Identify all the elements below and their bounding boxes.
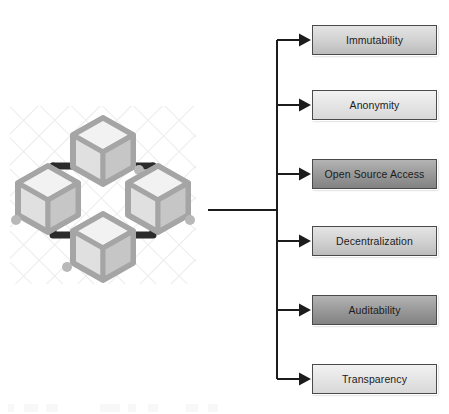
node-box-immutability[interactable]: Immutability <box>312 25 437 55</box>
node-box-anonymity[interactable]: Anonymity <box>312 90 437 120</box>
diagram-canvas: Immutability Anonymity Open Source Acces… <box>0 0 449 414</box>
node-box-decentralization[interactable]: Decentralization <box>312 226 437 256</box>
bottom-edge-artifact <box>8 404 218 412</box>
node-label-decentralization: Decentralization <box>336 235 413 247</box>
node-box-open-source-access[interactable]: Open Source Access <box>312 159 437 189</box>
node-label-anonymity: Anonymity <box>350 99 400 111</box>
node-label-immutability: Immutability <box>346 34 403 46</box>
arrowheads <box>299 34 311 386</box>
blockchain-network-illustration <box>8 104 198 288</box>
node-label-open-source-access: Open Source Access <box>325 168 425 180</box>
node-label-transparency: Transparency <box>342 373 407 385</box>
node-box-transparency[interactable]: Transparency <box>312 364 437 394</box>
node-label-auditability: Auditability <box>349 304 401 316</box>
node-box-auditability[interactable]: Auditability <box>312 295 437 325</box>
